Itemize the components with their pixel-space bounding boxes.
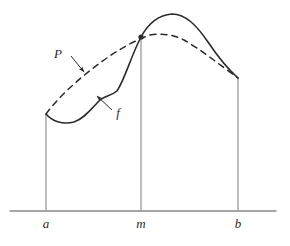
curve-p-dashed (46, 34, 238, 114)
intersection-dot-m (138, 34, 143, 39)
curve-f-solid (46, 14, 238, 123)
pointer-p-arrow-icon (71, 56, 84, 72)
figure-container: P f a m b (0, 0, 290, 246)
curve-label-p: P (53, 46, 62, 61)
math-diagram-svg: P f a m b (0, 0, 290, 246)
axis-tick-label-b: b (235, 216, 242, 231)
axis-tick-label-m: m (136, 216, 145, 231)
axis-tick-label-a: a (43, 216, 50, 231)
curve-label-f: f (116, 105, 122, 120)
